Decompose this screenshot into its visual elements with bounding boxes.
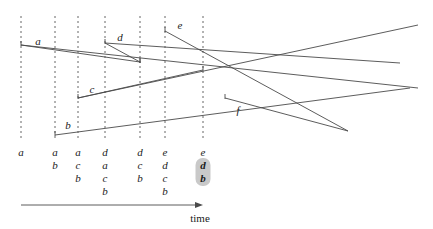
stack-item: d bbox=[133, 146, 147, 159]
stack-item: e bbox=[158, 146, 172, 159]
stack-item: d bbox=[98, 146, 112, 159]
stack-item: c bbox=[158, 172, 172, 185]
stack-column-5: dcb bbox=[133, 146, 147, 185]
segment-label-b: b bbox=[65, 119, 71, 131]
stack-item: c bbox=[71, 159, 85, 172]
stack-column-6: edcb bbox=[158, 146, 172, 198]
segment-label-a: a bbox=[35, 35, 41, 47]
short-segment-c-end bbox=[78, 70, 203, 98]
segment-line-d bbox=[105, 43, 400, 63]
stack-item: c bbox=[98, 172, 112, 185]
stack-item: c bbox=[133, 159, 147, 172]
stack-item: a bbox=[14, 146, 28, 159]
stack-item: b bbox=[71, 172, 85, 185]
stack-column-3: acb bbox=[71, 146, 85, 185]
time-axis-group bbox=[21, 202, 203, 208]
stack-item: b bbox=[196, 172, 210, 185]
segment-line-a bbox=[21, 45, 418, 88]
time-axis-label: time bbox=[190, 212, 210, 224]
stack-item: b bbox=[48, 159, 62, 172]
dashed-guideline-group bbox=[21, 16, 203, 140]
stack-item: d bbox=[196, 159, 210, 172]
stack-item: a bbox=[48, 146, 62, 159]
time-axis-arrowhead bbox=[195, 202, 203, 208]
segment-label-d: d bbox=[117, 31, 123, 43]
segment-line-f bbox=[225, 98, 348, 131]
segment-label-f: f bbox=[236, 104, 239, 116]
segment-line-c bbox=[78, 25, 418, 98]
stack-item: a bbox=[98, 159, 112, 172]
stack-column-7: edb bbox=[196, 146, 210, 185]
stack-item: a bbox=[71, 146, 85, 159]
segment-label-e: e bbox=[178, 19, 183, 31]
timeline-segment-group bbox=[21, 25, 418, 136]
stack-column-4: dacb bbox=[98, 146, 112, 198]
figure-canvas: adecbf aabacbdacbdcbedcbedb time bbox=[0, 0, 433, 229]
stack-item: e bbox=[196, 146, 210, 159]
segment-label-c: c bbox=[90, 83, 95, 95]
stack-item: b bbox=[133, 172, 147, 185]
stack-item: d bbox=[158, 159, 172, 172]
stack-item: b bbox=[158, 185, 172, 198]
stack-column-2: ab bbox=[48, 146, 62, 172]
stack-column-1: a bbox=[14, 146, 28, 159]
stack-item: b bbox=[98, 185, 112, 198]
stack-highlight-group: db bbox=[196, 159, 210, 185]
diagram-svg bbox=[0, 0, 433, 229]
short-segment-a-end bbox=[21, 45, 140, 62]
segment-line-b bbox=[55, 88, 410, 135]
